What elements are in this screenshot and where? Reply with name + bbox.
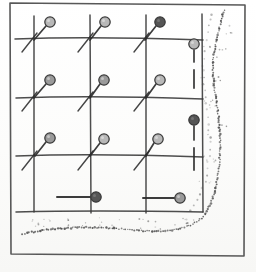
shoreline-dot-faint [203,69,205,71]
grid-line-h1 [15,38,203,40]
shoreline-dot-faint [208,24,210,26]
stipple-speckle [140,228,141,229]
pin-head-highlight [155,136,158,139]
shoreline-dot [179,227,181,229]
shoreline-dot [212,69,214,71]
stipple-speckle [221,124,223,126]
shoreline-dot [220,144,222,146]
pin-head[interactable] [155,75,165,85]
stipple-speckle [220,80,222,82]
shoreline-dot [216,102,218,104]
shoreline-dot [54,228,56,230]
stipple-speckle [200,77,202,79]
pin-marker-pin-r1c4[interactable] [189,39,199,62]
stipple-speckle [32,219,33,220]
shoreline-dot [215,46,217,48]
shoreline-dot [131,229,133,231]
shoreline-dot-faint [209,155,211,157]
pin-head[interactable] [45,75,55,85]
pin-head[interactable] [155,17,165,27]
dotted-shoreline [21,9,232,235]
pin-head[interactable] [175,193,185,203]
shoreline-dot [213,194,215,196]
pin-head[interactable] [45,133,55,143]
shoreline-dot [213,78,215,80]
shoreline-dot [70,227,73,230]
shoreline-dot [59,227,61,229]
shoreline-dot [215,44,216,45]
stipple-speckle [210,107,211,108]
shoreline-dot [175,228,177,230]
pin-marker-pin-r1c3[interactable] [145,17,165,40]
pin-head[interactable] [153,134,163,144]
shoreline-dot [217,117,219,119]
stipple-speckle [154,226,156,228]
shoreline-dot [202,216,204,218]
shoreline-dot [207,206,209,208]
stipple-speckle [99,217,100,218]
pin-head-highlight [102,19,105,22]
stipple-speckle [31,221,33,223]
pin-head-highlight [177,195,180,198]
pin-marker-pin-r3c2[interactable] [90,134,109,156]
pin-head[interactable] [189,39,199,49]
shoreline-dot [215,41,217,43]
shoreline-dot [57,227,59,229]
stipple-speckle [99,224,100,225]
shoreline-dot [46,228,48,230]
stipple-speckle [204,100,206,102]
shoreline-dot-faint [203,77,205,79]
stipple-speckle [43,219,44,220]
pin-marker-pin-r1c2[interactable] [90,17,110,40]
pin-marker-pin-r2c2[interactable] [90,75,109,98]
pin-marker-pin-r4c2[interactable] [57,192,101,202]
stipple-speckle [160,228,162,230]
shoreline-dot [141,229,142,230]
shoreline-dot [67,227,69,229]
shoreline-dot-faint [201,187,203,189]
shoreline-dot [24,233,26,235]
shoreline-dot-faint [206,39,208,41]
shoreline-dot [217,121,219,123]
pin-head[interactable] [100,17,110,27]
shoreline-dot [164,230,166,232]
pin-marker-pin-r4c3[interactable] [143,193,185,203]
pin-head[interactable] [99,134,109,144]
shoreline-dot [214,91,215,92]
shoreline-dot [216,183,218,185]
grid-line-v4 [202,14,203,212]
shoreline-dot-faint [189,209,191,211]
stipple-speckle [119,219,120,220]
shoreline-dot [201,218,203,220]
pin-marker-pin-r3c1[interactable] [35,133,55,156]
shoreline-dot [222,16,224,18]
shoreline-dot [50,228,52,230]
shoreline-dot-faint [209,141,211,143]
pin-marker-pin-r2c3[interactable] [146,75,165,98]
pin-head[interactable] [45,17,55,27]
stipple-speckle [67,225,69,227]
shoreline-dot [157,230,159,232]
pin-head[interactable] [91,192,101,202]
stipple-speckle [230,32,232,34]
stipple-speckle [49,219,50,220]
shoreline-dot [215,94,217,96]
pin-marker-pin-r2c1[interactable] [34,75,55,98]
shoreline-dot [219,161,221,163]
shoreline-dot [213,51,215,53]
pin-marker-pin-r1c1[interactable] [34,17,55,40]
shoreline-dot [221,13,223,15]
shoreline-dot [210,200,212,202]
pin-marker-pin-r3c3[interactable] [146,134,163,156]
stipple-speckle [215,160,217,162]
shoreline-dot [133,229,135,231]
shoreline-dot [218,119,220,121]
pin-head[interactable] [99,75,109,85]
shoreline-dot [169,229,171,231]
stipple-speckle [218,76,220,78]
stipple-speckle [209,104,211,106]
pin-head[interactable] [189,115,199,125]
shoreline-dot [142,230,144,232]
pin-marker-pin-r3c4[interactable] [189,115,199,140]
shoreline-dot [183,226,185,228]
